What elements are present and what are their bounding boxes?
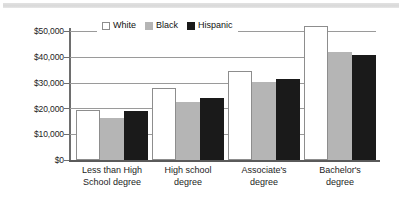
bar-group-associates bbox=[228, 31, 300, 160]
legend-item-black: Black bbox=[145, 21, 178, 30]
bar-black bbox=[100, 118, 124, 160]
chart-legend: White Black Hispanic bbox=[97, 19, 238, 32]
legend-label: Hispanic bbox=[198, 21, 233, 30]
bar-hispanic bbox=[276, 79, 300, 160]
gray-swatch-icon bbox=[145, 22, 153, 30]
bar-group-high-school bbox=[152, 31, 224, 160]
category-label-line: Bachelor's bbox=[292, 164, 388, 176]
bar-black bbox=[252, 82, 276, 160]
x-axis-line bbox=[69, 160, 380, 162]
y-tick-label-30000: $30,000 bbox=[6, 79, 64, 88]
y-axis-labels: $50,000 $40,000 $30,000 $20,000 $10,000 … bbox=[4, 0, 64, 203]
legend-item-white: White bbox=[102, 21, 136, 30]
legend-label: Black bbox=[156, 21, 178, 30]
white-swatch-icon bbox=[102, 22, 110, 30]
category-label-line: degree bbox=[292, 176, 388, 188]
grouped-bar-chart: $50,000 $40,000 $30,000 $20,000 $10,000 … bbox=[0, 0, 402, 203]
bar-group-bachelors bbox=[304, 31, 376, 160]
bar-white bbox=[76, 110, 100, 160]
bar-hispanic bbox=[200, 98, 224, 160]
y-tick-label-0: $0 bbox=[6, 156, 64, 165]
legend-item-hispanic: Hispanic bbox=[187, 21, 233, 30]
y-tick-label-40000: $40,000 bbox=[6, 53, 64, 62]
black-swatch-icon bbox=[187, 22, 195, 30]
bar-hispanic bbox=[352, 55, 376, 160]
y-tick-label-20000: $20,000 bbox=[6, 105, 64, 114]
y-tick-label-10000: $10,000 bbox=[6, 130, 64, 139]
legend-label: White bbox=[113, 21, 136, 30]
bar-hispanic bbox=[124, 111, 148, 160]
bar-group-less-than-high-school bbox=[76, 31, 148, 160]
bar-black bbox=[176, 102, 200, 160]
bar-white bbox=[228, 71, 252, 160]
x-axis-category-labels: Less than High School degree High school… bbox=[70, 164, 380, 200]
category-label-bachelors: Bachelor's degree bbox=[292, 164, 388, 188]
bar-white bbox=[152, 88, 176, 160]
plot-area bbox=[70, 31, 380, 160]
y-tick-label-50000: $50,000 bbox=[6, 27, 64, 36]
bar-black bbox=[328, 52, 352, 160]
bar-white bbox=[304, 26, 328, 160]
